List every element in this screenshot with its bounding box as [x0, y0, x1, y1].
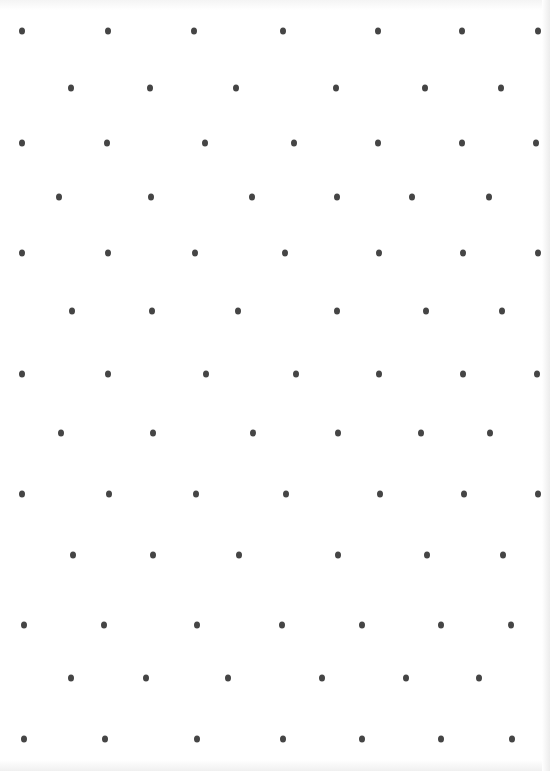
grid-dot: [375, 28, 381, 35]
grid-dot: [101, 622, 107, 629]
grid-dot: [149, 308, 155, 315]
grid-dot: [486, 194, 492, 201]
grid-dot: [203, 371, 209, 378]
grid-dot: [535, 28, 541, 35]
grid-dot: [533, 140, 539, 147]
grid-dot: [334, 308, 340, 315]
grid-dot: [249, 194, 255, 201]
grid-dot: [499, 308, 505, 315]
grid-dot: [403, 675, 409, 682]
grid-dot: [359, 622, 365, 629]
grid-dot: [69, 308, 75, 315]
grid-dot: [235, 308, 241, 315]
grid-dot: [105, 250, 111, 257]
grid-dot: [418, 430, 424, 437]
grid-dot: [359, 736, 365, 743]
grid-dot: [148, 194, 154, 201]
grid-dot: [423, 308, 429, 315]
grid-dot: [319, 675, 325, 682]
grid-dot: [102, 736, 108, 743]
grid-dot: [487, 430, 493, 437]
grid-dot: [459, 140, 465, 147]
grid-dot: [333, 85, 339, 92]
grid-dot: [19, 140, 25, 147]
grid-dot: [335, 430, 341, 437]
paper-edge-shadow: [542, 0, 550, 771]
grid-dot: [250, 430, 256, 437]
grid-dot: [147, 85, 153, 92]
grid-dot: [194, 622, 200, 629]
grid-dot: [424, 552, 430, 559]
grid-dot: [375, 140, 381, 147]
grid-dot: [293, 371, 299, 378]
grid-dot: [535, 491, 541, 498]
grid-dot: [280, 736, 286, 743]
grid-dot: [334, 194, 340, 201]
grid-dot: [376, 371, 382, 378]
grid-dot: [498, 85, 504, 92]
grid-dot: [279, 622, 285, 629]
grid-dot: [438, 736, 444, 743]
grid-dot: [191, 28, 197, 35]
grid-dot: [143, 675, 149, 682]
grid-dot: [68, 675, 74, 682]
grid-dot: [106, 491, 112, 498]
grid-dot: [335, 552, 341, 559]
grid-dot: [500, 552, 506, 559]
grid-dot: [508, 622, 514, 629]
grid-dot: [56, 194, 62, 201]
grid-dot: [233, 85, 239, 92]
grid-dot: [194, 736, 200, 743]
grid-dot: [535, 250, 541, 257]
grid-dot: [68, 85, 74, 92]
grid-dot: [202, 140, 208, 147]
grid-dot: [438, 622, 444, 629]
grid-dot: [58, 430, 64, 437]
grid-dot: [461, 491, 467, 498]
grid-dot: [376, 250, 382, 257]
dot-grid-paper: [0, 0, 550, 771]
grid-dot: [291, 140, 297, 147]
grid-dot: [282, 250, 288, 257]
grid-dot: [280, 28, 286, 35]
grid-dot: [460, 371, 466, 378]
grid-dot: [225, 675, 231, 682]
grid-dot: [105, 28, 111, 35]
grid-dot: [19, 371, 25, 378]
grid-dot: [236, 552, 242, 559]
grid-dot: [377, 491, 383, 498]
grid-dot: [19, 491, 25, 498]
grid-dot: [21, 622, 27, 629]
grid-dot: [19, 28, 25, 35]
grid-dot: [283, 491, 289, 498]
grid-dot: [460, 250, 466, 257]
grid-dot: [21, 736, 27, 743]
grid-dot: [476, 675, 482, 682]
grid-dot: [459, 28, 465, 35]
grid-dot: [19, 250, 25, 257]
grid-dot: [105, 371, 111, 378]
grid-dot: [104, 140, 110, 147]
grid-dot: [193, 491, 199, 498]
grid-dot: [70, 552, 76, 559]
grid-dot: [509, 736, 515, 743]
grid-dot: [192, 250, 198, 257]
grid-dot: [409, 194, 415, 201]
grid-dot: [422, 85, 428, 92]
grid-dot: [150, 430, 156, 437]
grid-dot: [150, 552, 156, 559]
grid-dot: [534, 371, 540, 378]
